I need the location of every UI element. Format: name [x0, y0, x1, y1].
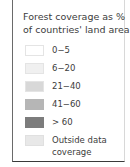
- swatch-outside-coverage: [25, 135, 44, 146]
- legend-title-line1: Forest coverage as %: [23, 10, 128, 23]
- legend-label: 21−40: [52, 80, 81, 92]
- swatch-over-60: [25, 117, 44, 128]
- legend-label-line2: coverage: [52, 146, 91, 158]
- swatch-41-60: [25, 99, 44, 110]
- map-legend: Forest coverage as % of countries' land …: [12, 0, 125, 162]
- legend-label: Outside data: [52, 134, 107, 146]
- swatch-6-20: [25, 63, 44, 74]
- swatch-21-40: [25, 81, 44, 92]
- legend-label: > 60: [52, 116, 73, 128]
- legend-title-line2: of countries' land area: [23, 23, 128, 36]
- legend-label: 41−60: [52, 98, 81, 110]
- swatch-0-5: [25, 45, 44, 56]
- legend-title: Forest coverage as % of countries' land …: [23, 10, 128, 36]
- legend-label: 6−20: [52, 62, 75, 74]
- legend-label: 0−5: [52, 44, 70, 56]
